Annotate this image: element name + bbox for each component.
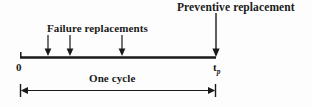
preventive-replacement-label: Preventive replacement (177, 2, 295, 14)
one-cycle-label: One cycle (89, 73, 135, 84)
one-cycle-dimension-line (21, 84, 216, 97)
failure-arrow-1 (45, 35, 52, 56)
timeline-diagram: Preventive replacement Failure replaceme… (0, 0, 312, 107)
diagram-canvas (0, 0, 312, 107)
cycle-end-subscript: p (217, 67, 221, 76)
cycle-end-label: tp (213, 62, 220, 76)
failure-replacements-label: Failure replacements (47, 23, 148, 34)
failure-arrow-2 (67, 35, 74, 56)
failure-arrow-3 (119, 35, 126, 56)
origin-label: 0 (16, 62, 22, 73)
preventive-arrow (212, 13, 219, 57)
